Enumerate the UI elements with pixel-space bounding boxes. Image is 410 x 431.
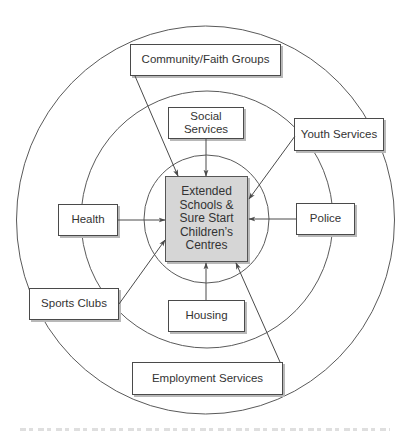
arrow-employment-to-center	[236, 263, 280, 362]
connector-arrows	[0, 0, 410, 431]
diagram-canvas: Community/Faith Groups Social Services Y…	[0, 0, 410, 431]
arrow-sports-to-center	[119, 240, 165, 304]
clipped-caption	[20, 426, 390, 431]
arrow-youth-to-center	[249, 136, 295, 199]
arrow-community-to-center	[135, 76, 178, 176]
